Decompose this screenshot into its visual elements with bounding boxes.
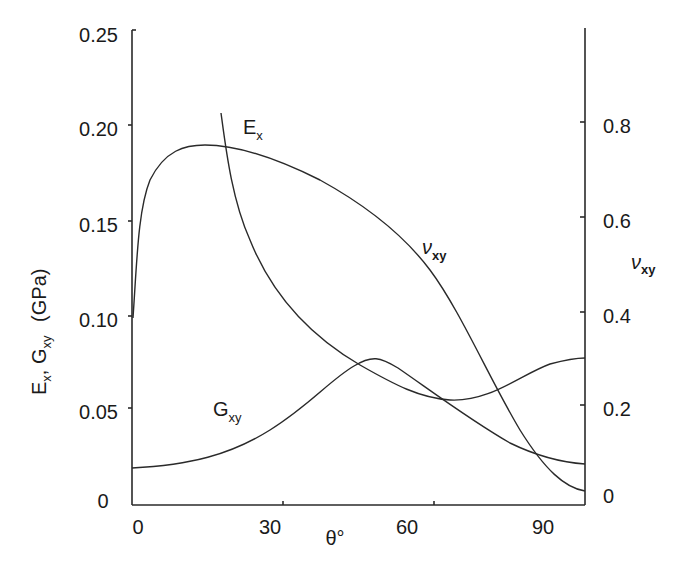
left-tick-label: 0 [97, 490, 108, 512]
left-tick-label: 0.15 [79, 214, 118, 236]
x-tick-label: 60 [396, 516, 418, 538]
right-y-axis-title: νxy [631, 251, 656, 277]
svg-text:Ex, Gxy (GPa): Ex, Gxy (GPa) [28, 269, 54, 395]
ex-label: Ex [243, 116, 263, 143]
left-y-axis-title: Ex, Gxy (GPa) [28, 269, 54, 395]
x-axis-title: θ° [325, 527, 344, 549]
right-tick-label: 0.2 [603, 398, 631, 420]
ex-curve [221, 113, 585, 400]
right-tick-label: 0.6 [603, 210, 631, 232]
left-tick-label: 0.25 [79, 24, 118, 46]
right-tick-label: 0.4 [603, 305, 631, 327]
right-tick-label: 0 [603, 485, 614, 507]
x-tick-label: 0 [132, 516, 143, 538]
gxy-curve [132, 359, 585, 468]
left-tick-label: 0.20 [79, 118, 118, 140]
x-tick-label: 30 [259, 516, 281, 538]
nu-xy-curve [133, 145, 585, 491]
nu-xy-label: νxy [422, 236, 447, 263]
gxy-label: Gxy [213, 398, 242, 425]
x-tick-label: 90 [532, 516, 554, 538]
left-tick-label: 0.05 [79, 401, 118, 423]
right-tick-label: 0.8 [603, 115, 631, 137]
chart: 0.25 0.20 0.15 0.10 0.05 0 0.8 0.6 0.4 0… [0, 0, 673, 577]
left-tick-label: 0.10 [79, 309, 118, 331]
